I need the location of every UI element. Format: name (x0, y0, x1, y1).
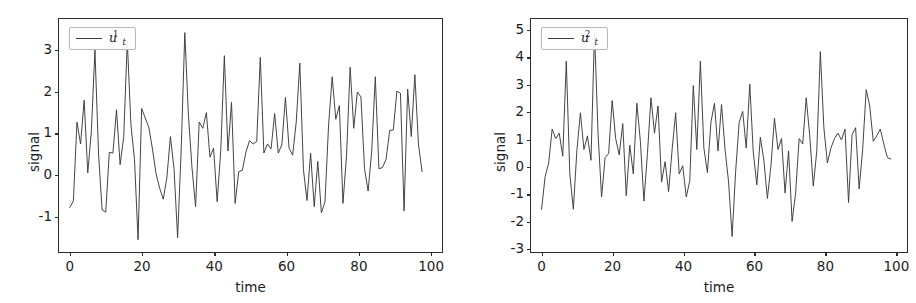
x-tick-mark (214, 252, 215, 256)
trace-polyline-left (70, 33, 422, 240)
legend-subscript-left: t (122, 37, 125, 47)
x-tick-mark (287, 252, 288, 256)
x-tick-label: 40 (675, 260, 692, 274)
y-axis-label-left: signal (26, 132, 42, 172)
y-tick-label: 5 (515, 23, 524, 37)
y-tick-label: -2 (511, 215, 524, 229)
y-tick-label: 1 (43, 127, 52, 141)
legend-line-swatch-right (548, 38, 574, 39)
panel-right: signal time u2t -3-2-1012345020406080100 (458, 0, 916, 303)
y-tick-mark (527, 222, 531, 223)
x-tick-mark (896, 252, 897, 256)
x-tick-label: 60 (746, 260, 763, 274)
x-tick-label: 60 (278, 260, 295, 274)
legend-label-right: u2t (581, 30, 598, 45)
y-tick-mark (527, 167, 531, 168)
legend-label-left: u1t (109, 30, 126, 45)
x-tick-mark (684, 252, 685, 256)
x-tick-label: 20 (604, 260, 621, 274)
x-tick-mark (754, 252, 755, 256)
x-tick-mark (542, 252, 543, 256)
figure: signal time u1t -10123020406080100 signa… (0, 0, 916, 303)
y-tick-mark (527, 194, 531, 195)
x-tick-label: 100 (883, 260, 909, 274)
x-tick-label: 80 (350, 260, 367, 274)
y-tick-label: 1 (515, 133, 524, 147)
x-tick-label: 0 (537, 260, 546, 274)
y-tick-label: 0 (43, 168, 52, 182)
x-tick-label: 100 (418, 260, 444, 274)
x-tick-mark (359, 252, 360, 256)
x-tick-mark (142, 252, 143, 256)
x-axis-label-left: time (58, 279, 443, 295)
y-tick-label: 3 (43, 43, 52, 57)
y-tick-label: 0 (515, 160, 524, 174)
y-axis-label-right: signal (492, 132, 508, 172)
x-tick-label: 40 (206, 260, 223, 274)
x-tick-mark (613, 252, 614, 256)
y-tick-mark (527, 57, 531, 58)
y-tick-mark (527, 30, 531, 31)
y-tick-label: 4 (515, 51, 524, 65)
legend-superscript-left: 1 (113, 29, 118, 39)
trace-polyline-right (542, 31, 891, 236)
x-tick-label: 0 (66, 260, 75, 274)
y-tick-mark (55, 217, 59, 218)
y-tick-label: 2 (515, 105, 524, 119)
y-tick-label: -3 (511, 243, 524, 257)
x-tick-mark (825, 252, 826, 256)
legend-subscript-right: t (594, 37, 597, 47)
y-tick-label: 2 (43, 85, 52, 99)
signal-line-right (531, 19, 907, 252)
x-tick-mark (70, 252, 71, 256)
legend-right: u2t (541, 27, 608, 50)
y-tick-label: -1 (511, 188, 524, 202)
y-tick-mark (55, 133, 59, 134)
y-tick-mark (527, 140, 531, 141)
x-tick-label: 20 (134, 260, 151, 274)
legend-left: u1t (69, 27, 136, 50)
y-tick-label: 3 (515, 78, 524, 92)
legend-superscript-right: 2 (585, 29, 590, 39)
y-tick-mark (527, 85, 531, 86)
legend-line-swatch-left (76, 38, 102, 39)
y-tick-mark (55, 92, 59, 93)
y-tick-mark (527, 249, 531, 250)
y-tick-mark (55, 175, 59, 176)
x-tick-label: 80 (817, 260, 834, 274)
plot-area-right: u2t -3-2-1012345020406080100 (530, 18, 908, 253)
panel-left: signal time u1t -10123020406080100 (0, 0, 458, 303)
y-tick-mark (527, 112, 531, 113)
x-tick-mark (431, 252, 432, 256)
signal-line-left (59, 19, 442, 252)
x-axis-label-right: time (530, 279, 908, 295)
y-tick-mark (55, 50, 59, 51)
plot-area-left: u1t -10123020406080100 (58, 18, 443, 253)
y-tick-label: -1 (39, 210, 52, 224)
